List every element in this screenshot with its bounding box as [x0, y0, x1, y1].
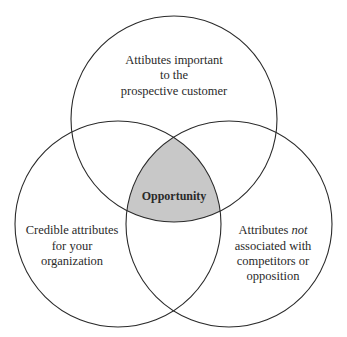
- label-line: organization: [41, 254, 104, 268]
- label-part: Attributes: [238, 223, 291, 237]
- label-italic: not: [292, 223, 309, 237]
- label-line: Attibutes important: [125, 53, 223, 67]
- label-opportunity: Opportunity: [142, 189, 207, 203]
- label-line: competitors or: [237, 254, 310, 268]
- label-customer: Attibutes important to the prospective c…: [121, 53, 228, 98]
- venn-diagram: Attibutes important to the prospective c…: [0, 0, 347, 337]
- label-line: prospective customer: [121, 84, 228, 98]
- label-organization: Credible attributes for your organizatio…: [26, 223, 119, 268]
- label-line: associated with: [235, 239, 312, 253]
- label-competitors: Attributes not associated with competito…: [235, 223, 312, 283]
- label-line: to the: [160, 68, 189, 82]
- label-line: for your: [52, 239, 93, 253]
- label-line: Attributes not: [238, 223, 308, 237]
- label-line: Credible attributes: [26, 223, 119, 237]
- label-line: opposition: [247, 269, 301, 283]
